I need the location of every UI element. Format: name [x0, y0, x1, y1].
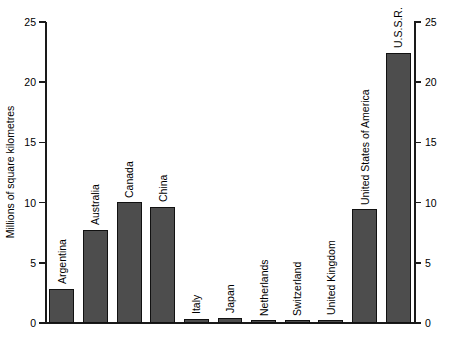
y-tick-mark-right [414, 21, 421, 23]
bar-label: Switzerland [292, 261, 302, 315]
bar [318, 320, 343, 323]
bar [352, 209, 377, 322]
y-tick-label-right: 10 [425, 198, 454, 208]
bar-label: Netherlands [259, 259, 269, 316]
bar-label: Argentina [57, 239, 67, 284]
bar-label: United Kingdom [326, 240, 336, 315]
bar-label: Canada [124, 161, 134, 198]
bar [49, 289, 74, 323]
y-tick-label: 25 [6, 17, 36, 27]
y-tick-mark-right [414, 142, 421, 144]
y-tick-label: 10 [6, 198, 36, 208]
bar [184, 319, 209, 323]
y-tick-label-right: 5 [425, 258, 454, 268]
y-tick-label: 20 [6, 77, 36, 87]
y-tick-mark-right [414, 81, 421, 83]
bar-label: Italy [191, 295, 201, 314]
bar-label: United States of America [360, 89, 370, 205]
y-tick-label: 0 [6, 318, 36, 328]
bar-label: Australia [90, 184, 100, 225]
y-tick-mark-right [414, 202, 421, 204]
y-tick-label: 15 [6, 137, 36, 147]
bar [386, 53, 411, 323]
bar [150, 207, 175, 323]
bar [117, 202, 142, 322]
y-tick-label-right: 15 [425, 137, 454, 147]
y-tick-label: 5 [6, 258, 36, 268]
bar [251, 320, 276, 323]
bar [285, 320, 310, 323]
bar-chart: Millions of square kilometres 0510152025… [0, 0, 454, 343]
y-axis-title: Millions of square kilometres [2, 22, 18, 322]
bar-label: Japan [225, 285, 235, 314]
plot-area: ArgentinaAustraliaCanadaChinaItalyJapanN… [45, 22, 415, 323]
y-tick-label-right: 0 [425, 318, 454, 328]
y-tick-label-right: 20 [425, 77, 454, 87]
y-tick-label-right: 25 [425, 17, 454, 27]
bar [218, 318, 243, 323]
bar [83, 230, 108, 323]
bar-label: China [158, 175, 168, 202]
y-tick-mark-right [414, 322, 421, 324]
bar-label: U.S.S.R. [393, 7, 403, 48]
y-tick-mark-right [414, 262, 421, 264]
y-axis-title-text: Millions of square kilometres [4, 106, 16, 238]
